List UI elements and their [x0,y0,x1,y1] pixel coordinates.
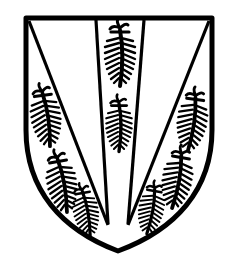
heraldic-shield [0,0,229,268]
